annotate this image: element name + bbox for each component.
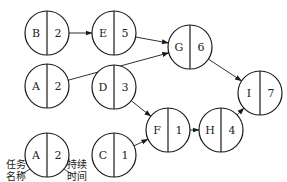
node-duration: 4 — [229, 124, 236, 137]
node-e: E5 — [92, 11, 136, 55]
node-c: C1 — [92, 133, 136, 177]
node-duration: 5 — [122, 27, 129, 40]
legend-name-label-line2: 名称 — [6, 170, 26, 182]
edge-e-to-g — [136, 37, 169, 43]
node-task-name: C — [99, 149, 107, 162]
node-task-name: F — [153, 124, 161, 137]
edge-c-to-f — [134, 139, 148, 146]
node-i: I7 — [238, 71, 282, 115]
node-duration: 2 — [55, 27, 62, 40]
node-b: B2 — [25, 11, 69, 55]
node-task-name: G — [175, 41, 184, 54]
legend-duration-label-line2: 时间 — [67, 170, 87, 182]
node-duration: 1 — [122, 149, 129, 162]
node-a: A2 — [25, 64, 69, 108]
node-duration: 3 — [122, 81, 129, 94]
node-duration: 1 — [176, 124, 183, 137]
node-task-name: I — [247, 87, 251, 100]
edge-d-to-f — [131, 101, 151, 117]
node-h: H4 — [199, 108, 243, 152]
node-f: F1 — [146, 108, 190, 152]
legend-duration-label-line1: 持续 — [67, 158, 87, 170]
node-task-name: H — [205, 124, 215, 137]
node-task-name: E — [99, 27, 107, 40]
node-g: G6 — [168, 25, 212, 69]
edge-h-to-i — [237, 108, 244, 115]
node-duration: 2 — [55, 80, 62, 93]
node-duration: 6 — [198, 41, 205, 54]
node-task-name: D — [99, 81, 108, 94]
legend-example-duration: 2 — [55, 149, 62, 162]
legend-name-label-line1: 任务 — [6, 158, 26, 170]
node-d: D3 — [92, 65, 136, 109]
node-task-name: B — [32, 27, 40, 40]
legend-example-name: A — [31, 149, 41, 162]
node-duration: 7 — [268, 87, 275, 100]
edge-g-to-i — [208, 59, 241, 81]
node-task-name: A — [31, 80, 41, 93]
network-diagram: B2E5G6A2D3F1H4I7C1 A 2 任务 名称 持续 时间 — [0, 0, 287, 182]
legend: A 2 任务 名称 持续 时间 — [6, 133, 87, 182]
